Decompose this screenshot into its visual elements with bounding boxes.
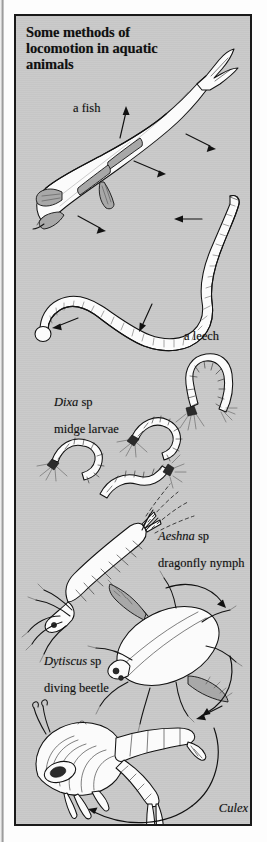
figure-title: Some methods of locomotion in aquatic an… [26,24,196,73]
label-aeshna: Aeshna sp dragonfly nymph [158,516,244,570]
scan-edge [0,0,4,842]
label-culex-genus: Culex [219,801,248,815]
label-leech: a leech [184,316,219,343]
page-background: Some methods of locomotion in aquatic an… [0,0,267,842]
dixa-larva-1 [176,354,237,430]
fish-drawing [33,49,238,229]
leech-motion-arrows [52,216,202,332]
dixa-larva-4 [100,455,186,498]
label-aeshna-common: dragonfly nymph [158,556,244,570]
label-dixa-genus: Dixa [54,395,78,409]
label-dixa-common: midge larvae [54,422,119,436]
figure-plate: Some methods of locomotion in aquatic an… [14,14,252,826]
label-fish-text: a fish [73,101,100,115]
illustration-artwork [16,16,250,824]
dixa-larva-2 [117,416,182,461]
label-aeshna-genus: Aeshna [158,529,195,543]
dixa-larva-3 [37,438,104,483]
label-fish: a fish [73,88,100,115]
label-dixa: Dixa sp midge larvae [54,382,119,436]
label-dytiscus-common: diving beetle [44,681,109,695]
label-dytiscus-genus: Dytiscus [44,654,87,668]
label-dixa-sp: sp [78,395,92,409]
label-dytiscus-sp: sp [87,654,101,668]
label-leech-text: a leech [184,329,219,343]
label-aeshna-sp: sp [195,529,209,543]
label-culex: Culex mosquito pupa [164,788,248,826]
label-dytiscus: Dytiscus sp diving beetle [44,641,109,695]
